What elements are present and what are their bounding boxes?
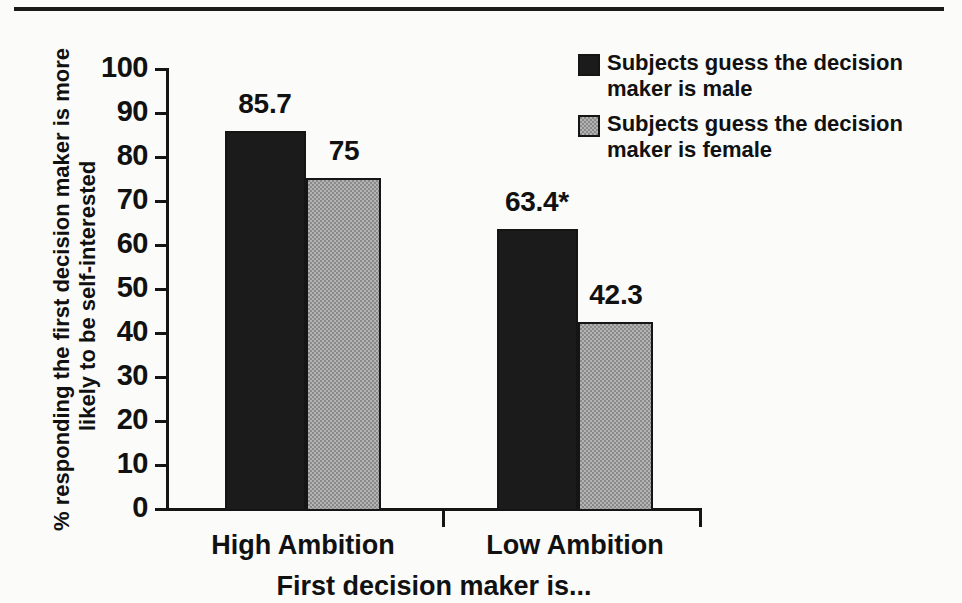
- y-tick-90: [155, 112, 166, 115]
- legend-swatch-black-icon: [578, 54, 600, 76]
- top-horizontal-rule: [14, 7, 944, 11]
- legend-label-female-line-1: Subjects guess the: [607, 111, 808, 136]
- x-axis-title: First decision maker is...: [166, 573, 702, 600]
- x-tick-right-end: [699, 511, 702, 527]
- legend-swatch-gray-icon: [578, 115, 600, 137]
- x-category-label-high-ambition: High Ambition: [183, 532, 423, 559]
- legend-label-male-line-2: maker is male: [607, 76, 753, 101]
- y-axis-title-line-2: likely to be self-interested: [75, 61, 101, 531]
- bar-value-low-ambition-female: 42.3: [556, 281, 676, 309]
- plot-area: 100 90 80 70 60 50 40 30: [0, 20, 962, 603]
- bar-low-ambition-female[interactable]: [578, 322, 653, 511]
- y-tick-30: [155, 376, 166, 379]
- y-axis-title: % responding the first decision maker is…: [49, 61, 101, 531]
- legend-item-female[interactable]: Subjects guess the decision maker is fem…: [578, 111, 948, 162]
- y-tick-80: [155, 156, 166, 159]
- y-tick-0: [155, 508, 166, 511]
- y-tick-40: [155, 332, 166, 335]
- bar-chart-figure: 100 90 80 70 60 50 40 30: [0, 20, 962, 603]
- y-tick-70: [155, 200, 166, 203]
- y-tick-100: [155, 68, 166, 71]
- bar-value-high-ambition-male: 85.7: [205, 90, 325, 118]
- y-axis-title-line-1: % responding the first decision maker is…: [49, 61, 75, 531]
- y-axis-line: [166, 68, 169, 511]
- legend-label-male-line-1: Subjects guess the decision: [607, 50, 903, 75]
- y-tick-10: [155, 464, 166, 467]
- y-tick-50: [155, 288, 166, 291]
- x-category-label-low-ambition: Low Ambition: [455, 532, 695, 559]
- bar-value-high-ambition-female: 75: [284, 137, 404, 165]
- legend-item-male[interactable]: Subjects guess the decision maker is mal…: [578, 50, 948, 101]
- bar-low-ambition-male[interactable]: [497, 229, 578, 511]
- figure-page: 100 90 80 70 60 50 40 30: [0, 0, 962, 603]
- legend: Subjects guess the decision maker is mal…: [578, 50, 948, 173]
- legend-label-male: Subjects guess the decision maker is mal…: [607, 50, 937, 101]
- bar-high-ambition-male[interactable]: [225, 131, 306, 511]
- y-tick-20: [155, 420, 166, 423]
- legend-label-female: Subjects guess the decision maker is fem…: [607, 111, 937, 162]
- y-tick-60: [155, 244, 166, 247]
- x-tick-group-separator: [442, 511, 445, 527]
- bar-high-ambition-female[interactable]: [306, 178, 381, 511]
- bar-value-low-ambition-male: 63.4*: [477, 188, 597, 216]
